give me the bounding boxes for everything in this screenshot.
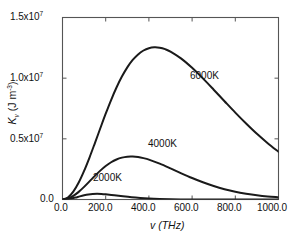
plot-area	[0, 0, 308, 245]
plot-frame	[63, 18, 279, 200]
curves-group	[63, 47, 279, 199]
blackbody-spectral-energy-density-chart: 1.5x107 1.0x107 0.5x107 0.0 Kv (J m-3) 0…	[0, 0, 308, 245]
